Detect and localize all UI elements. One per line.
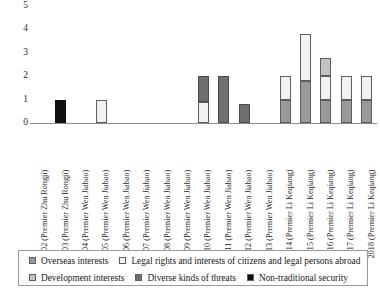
legend-swatch-icon <box>247 274 254 281</box>
x-axis-label: 2016 (Premier Li Keqiang) <box>316 124 336 236</box>
x-axis-label-text: 2012 (Premier Wen Jiabao) <box>244 80 253 169</box>
legend-label: Development interests <box>41 273 124 283</box>
x-axis-label-text: 2016 (Premier Li Keqiang) <box>326 81 335 170</box>
x-axis-label: 2009 (Premier Wen Jiabao) <box>173 124 193 236</box>
x-axis-label: 2004 (Premier Wen Jiabao) <box>71 124 91 236</box>
bar-segment <box>320 58 331 77</box>
x-axis-label-text: 2005 (Premier Wen Jiabao) <box>101 80 110 169</box>
legend-row-2: Development interestsDiverse kinds of th… <box>19 269 377 286</box>
legend-swatch-icon <box>135 274 142 281</box>
legend-label: Diverse kinds of threats <box>147 273 236 283</box>
x-axis-label: 2012 (Premier Wen Jiabao) <box>234 124 254 236</box>
x-axis-label-text: 2007 (Premier Wen Jiabao) <box>142 80 151 169</box>
x-axis-label-text: 2003 (Premier Zhu Rongji) <box>61 80 70 169</box>
x-axis-label-text: 2014 (Premier Li Keqiang) <box>285 81 294 170</box>
legend-swatch-icon <box>29 257 36 264</box>
x-axis-label-value: 2009 (Premier Wen Jiabao) <box>183 170 192 259</box>
x-axis-label: 2002 (Premier Zhu Rongji) <box>30 124 50 236</box>
x-axis-label-value: 2005 (Premier Wen Jiabao) <box>101 170 110 259</box>
x-axis-label: 2010 (Premier Wen Jiabao) <box>193 124 213 236</box>
x-axis-label: 2015 (Premier Li Keqiang) <box>295 124 315 236</box>
x-axis-label: 2003 (Premier Zhu Rongji) <box>50 124 70 236</box>
legend-label: Overseas interests <box>41 256 108 266</box>
x-axis-label-value: 2018 (Premier Li Keqiang) <box>367 169 376 258</box>
y-tick-label: 4 <box>14 24 28 34</box>
bar-segment <box>300 34 311 81</box>
x-axis-label-text: 2004 (Premier Wen Jiabao) <box>81 80 90 169</box>
y-tick-label: 5 <box>14 1 28 11</box>
chart-legend: Overseas interestsLegal rights and inter… <box>18 250 368 286</box>
x-axis-label-value: 2012 (Premier Wen Jiabao) <box>244 170 253 259</box>
x-axis-label-value: 2002 (Premier Zhu Rongji) <box>40 170 49 259</box>
x-axis-label-value: 2016 (Premier Li Keqiang) <box>326 169 335 258</box>
x-axis-label-value: 2011 (Premier Wen Jiabao) <box>224 170 233 259</box>
x-axis-labels: 2002 (Premier Zhu Rongji)2003 (Premier Z… <box>30 124 377 236</box>
legend-item[interactable]: Legal rights and interests of citizens a… <box>119 256 360 266</box>
x-axis-label: 2014 (Premier Li Keqiang) <box>275 124 295 236</box>
x-axis-label-value: 2003 (Premier Zhu Rongji) <box>61 170 70 259</box>
x-axis-label: 2017 (Premier Li Keqiang) <box>336 124 356 236</box>
y-tick-label: 2 <box>14 71 28 81</box>
legend-swatch-icon <box>119 257 126 264</box>
x-axis-label-value: 2015 (Premier Li Keqiang) <box>306 169 315 258</box>
x-axis-label-value: 2017 (Premier Li Keqiang) <box>346 169 355 258</box>
legend-item[interactable]: Diverse kinds of threats <box>135 273 236 283</box>
x-axis-label: 2005 (Premier Wen Jiabao) <box>91 124 111 236</box>
x-axis-label-text: 2002 (Premier Zhu Rongji) <box>40 80 49 169</box>
x-axis-label: 2013 (Premier Wen Jiabao) <box>255 124 275 236</box>
x-axis-label: 2011 (Premier Wen Jiabao) <box>214 124 234 236</box>
legend-label: Legal rights and interests of citizens a… <box>131 256 360 266</box>
y-tick-label: 0 <box>14 118 28 128</box>
x-axis-label-value: 2007 (Premier Wen Jiabao) <box>142 170 151 259</box>
legend-row-1: Overseas interestsLegal rights and inter… <box>19 252 377 269</box>
x-axis-label-value: 2006 (Premier Wen Jiabao) <box>122 170 131 259</box>
y-tick-label: 1 <box>14 95 28 105</box>
x-axis-label-text: 2009 (Premier Wen Jiabao) <box>183 80 192 169</box>
x-axis-label-value: 2008 (Premier Wen Jiabao) <box>163 170 172 259</box>
x-axis-label-text: 2006 (Premier Wen Jiabao) <box>122 80 131 169</box>
x-axis-label-text: 2015 (Premier Li Keqiang) <box>306 81 315 170</box>
x-axis-label-text: 2010 (Premier Wen Jiabao) <box>203 80 212 169</box>
legend-swatch-icon <box>29 274 36 281</box>
x-axis-label: 2018 (Premier Li Keqiang) <box>357 124 377 236</box>
x-axis-label-text: 2017 (Premier Li Keqiang) <box>346 81 355 170</box>
x-axis-label-value: 2014 (Premier Li Keqiang) <box>285 169 294 258</box>
x-axis-label-text: 2008 (Premier Wen Jiabao) <box>163 80 172 169</box>
x-axis-label-value: 2004 (Premier Wen Jiabao) <box>81 170 90 259</box>
x-axis-label-text: 2018 (Premier Li Keqiang) <box>367 81 376 170</box>
x-axis-label: 2006 (Premier Wen Jiabao) <box>112 124 132 236</box>
stacked-bar-chart: 012345 2002 (Premier Zhu Rongji)2003 (Pr… <box>0 0 380 295</box>
legend-item[interactable]: Non-traditional security <box>247 273 348 283</box>
legend-item[interactable]: Development interests <box>29 273 124 283</box>
y-tick-label: 3 <box>14 48 28 58</box>
x-axis-label-value: 2013 (Premier Wen Jiabao) <box>265 170 274 259</box>
x-axis-label-text: 2013 (Premier Wen Jiabao) <box>265 80 274 169</box>
legend-label: Non-traditional security <box>259 273 348 283</box>
x-axis-label-value: 2010 (Premier Wen Jiabao) <box>203 170 212 259</box>
x-axis-label-text: 2011 (Premier Wen Jiabao) <box>224 80 233 169</box>
y-axis: 012345 <box>14 0 28 129</box>
x-axis-label: 2007 (Premier Wen Jiabao) <box>132 124 152 236</box>
legend-item[interactable]: Overseas interests <box>29 256 108 266</box>
x-axis-label: 2008 (Premier Wen Jiabao) <box>152 124 172 236</box>
